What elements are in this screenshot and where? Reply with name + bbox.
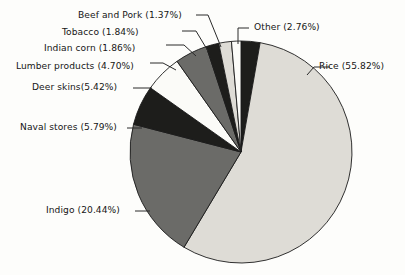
pie-label-tobacco: Tobacco (1.84%) [62, 28, 139, 37]
pie-label-naval-stores: Naval stores (5.79%) [20, 123, 117, 132]
pie-label-lumber-products: Lumber products (4.70%) [16, 62, 134, 71]
pie-label-deer-skins: Deer skins(5.42%) [32, 83, 117, 92]
leader-line-beef-and-pork [196, 15, 221, 47]
pie-chart-figure: Other (2.76%)Rice (55.82%)Indigo (20.44%… [0, 0, 405, 275]
pie-chart-canvas [0, 0, 405, 275]
pie-label-indigo: Indigo (20.44%) [46, 206, 120, 215]
pie-label-indian-corn: Indian corn (1.86%) [44, 44, 135, 53]
pie-label-beef-and-pork: Beef and Pork (1.37%) [78, 11, 182, 20]
pie-label-other: Other (2.76%) [254, 23, 320, 32]
pie-slice-group [130, 41, 352, 263]
pie-label-rice: Rice (55.82%) [319, 62, 384, 71]
